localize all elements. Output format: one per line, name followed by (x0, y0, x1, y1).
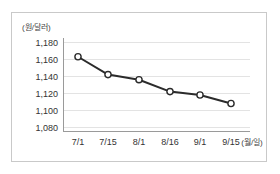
series-line-exchange-rate (78, 57, 231, 104)
x-axis-unit-label: (월/일) (241, 137, 263, 147)
y-tick-label: 1,160 (35, 55, 58, 65)
x-tick-label: 9/1 (194, 137, 207, 147)
x-tick-label: 7/1 (72, 137, 85, 147)
y-axis-unit-label: (원/달러) (22, 23, 51, 32)
axes (63, 38, 250, 132)
x-tick-label: 8/16 (161, 137, 179, 147)
data-point-marker (105, 72, 111, 78)
line-chart-plot: 1,180 1,160 1,140 1,120 1,100 1,080 (원/달… (12, 13, 268, 163)
data-point-marker (228, 100, 234, 106)
gridlines (63, 43, 250, 128)
y-tick-label: 1,180 (35, 38, 58, 48)
x-tick-label: 8/1 (133, 137, 146, 147)
y-tick-label: 1,080 (35, 123, 58, 133)
y-tick-label: 1,140 (35, 72, 58, 82)
data-point-marker (167, 89, 173, 95)
y-tick-label: 1,120 (35, 89, 58, 99)
data-point-marker (197, 92, 203, 98)
data-point-marker (75, 54, 81, 60)
y-tick-label: 1,100 (35, 106, 58, 116)
x-axis-tick-labels: 7/1 7/15 8/1 8/16 9/1 9/15 (72, 137, 240, 147)
data-point-marker (136, 77, 142, 83)
chart-figure: 1,180 1,160 1,140 1,120 1,100 1,080 (원/달… (11, 12, 267, 162)
y-axis-tick-labels: 1,180 1,160 1,140 1,120 1,100 1,080 (35, 38, 58, 133)
x-tick-label: 9/15 (222, 137, 240, 147)
x-tick-label: 7/15 (99, 137, 117, 147)
